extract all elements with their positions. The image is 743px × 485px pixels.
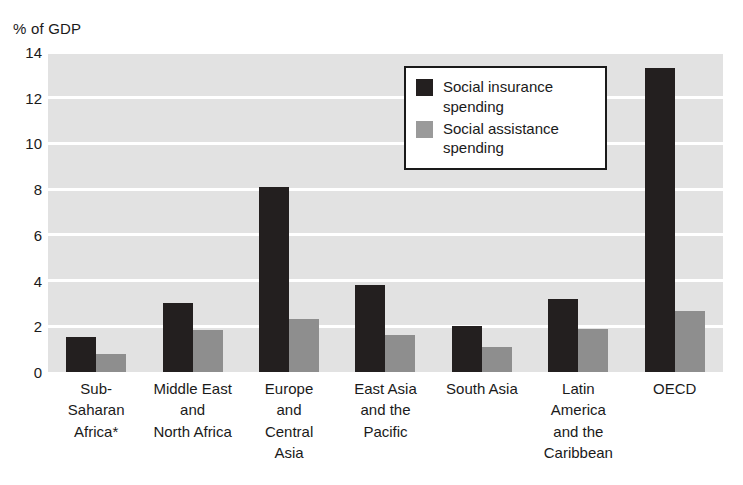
bar-group (144, 52, 240, 372)
x-axis-category-label: Sub- Saharan Africa* (48, 378, 144, 442)
legend-item-social-insurance: Social insurance spending (416, 77, 595, 117)
y-axis-tick-label: 6 (4, 227, 42, 242)
y-axis-tick-label: 10 (4, 136, 42, 151)
bar-social-assistance (385, 335, 415, 372)
bar-social-insurance (645, 68, 675, 372)
y-axis-tick-label: 8 (4, 182, 42, 197)
legend-label-insurance: Social insurance spending (443, 77, 553, 117)
plot-area (48, 52, 723, 372)
bar-social-assistance (578, 329, 608, 372)
chart-legend: Social insurance spending Social assista… (404, 66, 607, 170)
y-axis-tick-label: 14 (4, 45, 42, 60)
bar-social-assistance (482, 347, 512, 372)
bar-social-insurance (259, 187, 289, 372)
bar-social-insurance (452, 326, 482, 372)
bar-group (627, 52, 723, 372)
x-axis-category-label: OECD (627, 378, 723, 399)
x-axis-category-label: Europe and Central Asia (241, 378, 337, 463)
bar-social-assistance (289, 319, 319, 372)
y-axis-tick-label: 0 (4, 365, 42, 380)
bar-social-insurance (66, 337, 96, 372)
bar-social-insurance (548, 299, 578, 372)
bar-chart: % of GDP 02468101214 Sub- Saharan Africa… (0, 0, 743, 485)
legend-swatch-icon-assistance (416, 121, 433, 138)
y-axis-title: % of GDP (13, 20, 81, 37)
bar-social-assistance (675, 311, 705, 372)
y-axis-tick-labels: 02468101214 (0, 52, 42, 372)
x-axis-category-labels: Sub- Saharan Africa*Middle East and Nort… (48, 378, 723, 483)
bar-social-insurance (163, 303, 193, 372)
y-axis-tick-label: 12 (4, 90, 42, 105)
x-axis-category-label: South Asia (434, 378, 530, 399)
y-axis-tick-label: 2 (4, 319, 42, 334)
y-axis-tick-label: 4 (4, 273, 42, 288)
x-axis-category-label: East Asia and the Pacific (337, 378, 433, 442)
bar-groups (48, 52, 723, 372)
bar-group (241, 52, 337, 372)
legend-label-assistance: Social assistance spending (443, 119, 559, 159)
x-axis-category-label: Middle East and North Africa (144, 378, 240, 442)
bar-social-assistance (193, 330, 223, 372)
legend-swatch-icon-insurance (416, 79, 433, 96)
bar-social-assistance (96, 354, 126, 372)
x-axis-category-label: Latin America and the Caribbean (530, 378, 626, 463)
bar-group (48, 52, 144, 372)
legend-item-social-assistance: Social assistance spending (416, 119, 595, 159)
bar-social-insurance (355, 285, 385, 372)
